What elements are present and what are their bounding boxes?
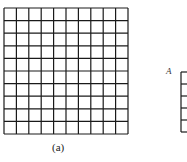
figure-caption: (a) (52, 141, 64, 153)
main-grid (4, 8, 128, 134)
partial-grid (181, 72, 187, 132)
point-label-a: A (166, 66, 172, 76)
figure-canvas (0, 0, 187, 162)
